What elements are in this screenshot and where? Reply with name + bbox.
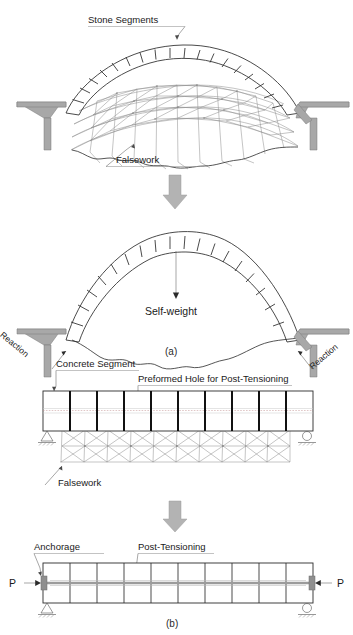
label-anchorage: Anchorage: [34, 541, 80, 552]
figure-root: Stone Segments: [0, 0, 353, 635]
label-falsework-a: Falsework: [116, 154, 160, 165]
anchorage-block-right: [309, 576, 315, 590]
label-self-weight: Self-weight: [145, 305, 197, 317]
label-post-tensioning: Post-Tensioning: [138, 541, 206, 552]
label-concrete-segment: Concrete Segment: [56, 358, 136, 369]
label-force-right: P: [337, 577, 344, 589]
anchorage-block-left: [41, 576, 47, 590]
label-force-left: P: [9, 577, 16, 589]
caption-b: (b): [166, 618, 178, 629]
caption-a: (a): [165, 346, 177, 357]
label-stone-segments: Stone Segments: [88, 14, 158, 25]
label-falsework-b: Falsework: [58, 477, 102, 488]
canvas-background: [0, 0, 353, 635]
label-preformed-hole: Preformed Hole for Post-Tensioning: [138, 373, 289, 384]
construction-sequence-diagram: Stone Segments: [0, 0, 353, 635]
